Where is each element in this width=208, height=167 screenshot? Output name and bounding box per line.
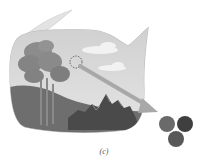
landscape-magnification-diagram: [0, 0, 208, 167]
figure-caption: (c): [0, 147, 208, 156]
molecule-spheres: [159, 116, 193, 147]
